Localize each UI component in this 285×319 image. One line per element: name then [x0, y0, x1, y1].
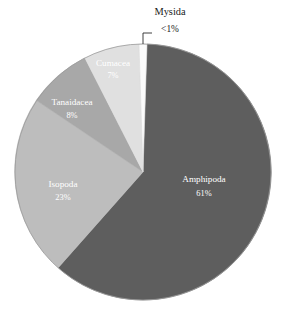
slice-label-mysida-value: <1% [161, 24, 179, 34]
pie-slices [15, 44, 272, 300]
slice-label-amphipoda-name: Amphipoda [182, 174, 225, 184]
slice-label-cumacea-value: 7% [107, 71, 118, 80]
slice-label-cumacea-name: Cumacea [96, 58, 130, 68]
slice-label-isopoda-value: 23% [55, 193, 70, 202]
pie-chart-svg: Amphipoda 61% Isopoda 23% Tanaidacea 8% … [0, 0, 285, 319]
pie-chart-figure: Amphipoda 61% Isopoda 23% Tanaidacea 8% … [0, 0, 285, 319]
slice-label-tanaidacea-name: Tanaidacea [51, 97, 92, 107]
slice-label-isopoda-name: Isopoda [48, 179, 77, 189]
mysida-leader-line [143, 33, 152, 44]
slice-label-tanaidacea-value: 8% [66, 111, 77, 120]
slice-label-amphipoda-value: 61% [196, 189, 211, 198]
slice-label-mysida-name: Mysida [154, 6, 186, 17]
